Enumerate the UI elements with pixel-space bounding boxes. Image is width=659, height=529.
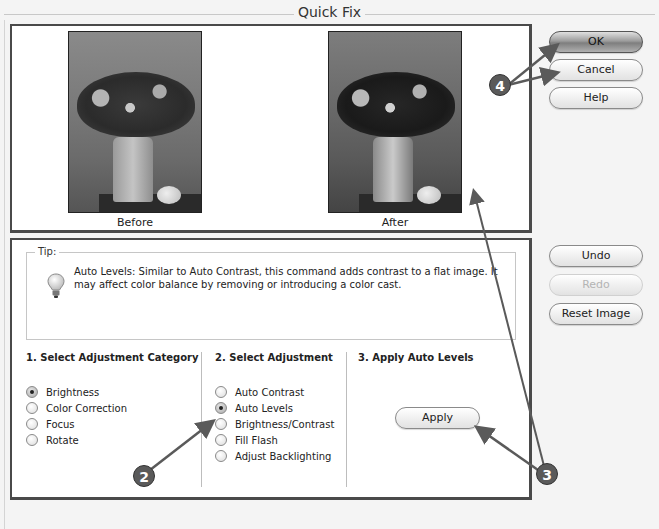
- ok-button[interactable]: OK: [549, 31, 643, 53]
- radio-brightness[interactable]: Brightness: [26, 384, 206, 400]
- radio-label: Focus: [46, 419, 75, 430]
- before-label: Before: [68, 216, 202, 229]
- after-image: [328, 31, 462, 213]
- radio-label: Auto Levels: [235, 403, 293, 414]
- adjustment-panel: Tip: Auto Levels: Similar to Auto Contra…: [10, 238, 532, 500]
- radio-label: Color Correction: [46, 403, 127, 414]
- after-photo: [329, 32, 461, 212]
- tip-box: Tip: Auto Levels: Similar to Auto Contra…: [26, 252, 516, 340]
- callout-4: 4: [489, 74, 511, 96]
- vase-graphic: [113, 137, 153, 202]
- window-titlebar: Quick Fix: [0, 0, 659, 24]
- radio-button[interactable]: [215, 450, 227, 462]
- radio-color-correction[interactable]: Color Correction: [26, 400, 206, 416]
- radio-rotate[interactable]: Rotate: [26, 432, 206, 448]
- window-title: Quick Fix: [294, 4, 365, 20]
- cancel-button[interactable]: Cancel: [549, 59, 643, 81]
- radio-fill-flash[interactable]: Fill Flash: [215, 432, 345, 448]
- radio-button[interactable]: [215, 434, 227, 446]
- radio-adjust-backlighting[interactable]: Adjust Backlighting: [215, 448, 345, 464]
- help-button[interactable]: Help: [549, 87, 643, 109]
- adjustment-column: 2. Select Adjustment Auto Contrast Auto …: [215, 352, 345, 490]
- vase-graphic: [373, 137, 413, 202]
- fruit-graphic: [417, 186, 441, 204]
- radio-button[interactable]: [26, 402, 38, 414]
- radio-brightness-contrast[interactable]: Brightness/Contrast: [215, 416, 345, 432]
- callout-2: 2: [133, 465, 155, 487]
- radio-focus[interactable]: Focus: [26, 416, 206, 432]
- radio-auto-levels[interactable]: Auto Levels: [215, 400, 345, 416]
- tip-legend: Tip:: [35, 246, 59, 257]
- category-column: 1. Select Adjustment Category Brightness…: [26, 352, 206, 490]
- lightbulb-icon: [47, 273, 65, 299]
- window-edge: [4, 20, 5, 529]
- adjustment-title: 2. Select Adjustment: [215, 352, 345, 363]
- preview-panel: Before After: [10, 24, 532, 233]
- radio-button[interactable]: [215, 386, 227, 398]
- radio-button[interactable]: [215, 418, 227, 430]
- radio-label: Rotate: [46, 435, 79, 446]
- column-divider: [346, 352, 347, 487]
- fruit-graphic: [157, 186, 181, 204]
- apply-title: 3. Apply Auto Levels: [358, 352, 518, 363]
- radio-label: Brightness/Contrast: [235, 419, 334, 430]
- adjustment-radio-group: Auto Contrast Auto Levels Brightness/Con…: [215, 384, 345, 464]
- radio-button[interactable]: [26, 434, 38, 446]
- before-image: [68, 31, 202, 213]
- after-label: After: [328, 216, 462, 229]
- before-photo: [69, 32, 201, 212]
- reset-image-button[interactable]: Reset Image: [549, 303, 643, 325]
- callout-3: 3: [536, 463, 558, 485]
- radio-button[interactable]: [26, 386, 38, 398]
- category-radio-group: Brightness Color Correction Focus Rotate: [26, 384, 206, 448]
- undo-button[interactable]: Undo: [549, 245, 643, 267]
- flowers-graphic: [337, 72, 455, 137]
- radio-label: Auto Contrast: [235, 387, 304, 398]
- radio-button[interactable]: [26, 418, 38, 430]
- radio-label: Brightness: [46, 387, 99, 398]
- radio-auto-contrast[interactable]: Auto Contrast: [215, 384, 345, 400]
- apply-button[interactable]: Apply: [395, 407, 480, 429]
- category-title: 1. Select Adjustment Category: [26, 352, 206, 363]
- radio-button[interactable]: [215, 402, 227, 414]
- column-divider: [201, 352, 202, 487]
- redo-button[interactable]: Redo: [549, 274, 643, 296]
- radio-label: Adjust Backlighting: [235, 451, 331, 462]
- tip-text: Auto Levels: Similar to Auto Contrast, t…: [74, 265, 510, 291]
- radio-label: Fill Flash: [235, 435, 278, 446]
- flowers-graphic: [77, 72, 195, 137]
